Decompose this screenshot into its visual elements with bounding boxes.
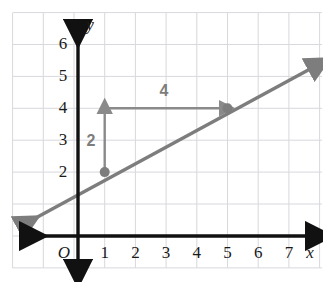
x-tick-label-6: 6 — [254, 243, 263, 262]
x-axis-label: x — [305, 243, 314, 262]
y-tick-label-4: 4 — [59, 98, 68, 117]
x-tick-label-1: 1 — [100, 243, 109, 262]
y-axis-label: y — [84, 15, 94, 34]
rise-label: 2 — [87, 132, 96, 149]
x-tick-label-3: 3 — [162, 243, 171, 262]
coordinate-plane-svg: 6 5 4 3 2 1 2 3 4 5 6 7 O x y 2 4 — [0, 0, 323, 282]
point-5-4 — [223, 103, 233, 113]
x-tick-label-2: 2 — [131, 243, 140, 262]
graph-figure: 6 5 4 3 2 1 2 3 4 5 6 7 O x y 2 4 — [0, 0, 323, 282]
y-tick-label-6: 6 — [59, 34, 68, 53]
y-tick-label-3: 3 — [59, 130, 68, 149]
run-label: 4 — [160, 82, 169, 99]
point-1-2 — [100, 167, 110, 177]
x-tick-label-4: 4 — [193, 243, 202, 262]
x-tick-label-5: 5 — [223, 243, 232, 262]
x-tick-label-7: 7 — [285, 243, 294, 262]
y-tick-label-5: 5 — [59, 66, 68, 85]
origin-label: O — [58, 243, 70, 262]
figure-background — [0, 0, 323, 282]
coordinate-plane: 6 5 4 3 2 1 2 3 4 5 6 7 O x y 2 4 — [0, 0, 323, 282]
y-tick-label-2: 2 — [59, 162, 68, 181]
